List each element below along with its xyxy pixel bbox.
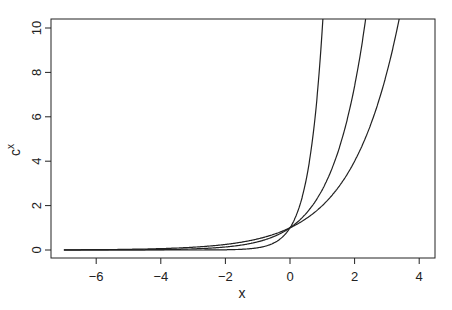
y-tick-label: 8 <box>29 69 44 76</box>
curve-10^x <box>64 19 323 250</box>
y-tick-label: 4 <box>29 158 44 165</box>
x-tick-label: −4 <box>153 269 168 284</box>
x-axis: −6−4−2024 <box>89 258 423 284</box>
x-tick-label: 4 <box>416 269 423 284</box>
y-tick-label: 0 <box>29 246 44 253</box>
exponential-chart: −6−4−2024 0246810 x cx <box>0 0 452 310</box>
x-tick-label: −2 <box>218 269 233 284</box>
curves <box>64 19 399 250</box>
y-axis: 0246810 <box>29 21 51 254</box>
y-tick-label: 10 <box>29 21 44 35</box>
y-tick-label: 2 <box>29 202 44 209</box>
x-tick-label: 0 <box>286 269 293 284</box>
y-tick-label: 6 <box>29 113 44 120</box>
svg-text:cx: cx <box>5 144 23 156</box>
x-tick-label: 2 <box>351 269 358 284</box>
x-tick-label: −6 <box>89 269 104 284</box>
curve-2^x <box>64 19 399 250</box>
y-axis-title: cx <box>5 144 23 156</box>
plot-frame <box>51 19 435 258</box>
x-axis-title: x <box>239 285 246 301</box>
